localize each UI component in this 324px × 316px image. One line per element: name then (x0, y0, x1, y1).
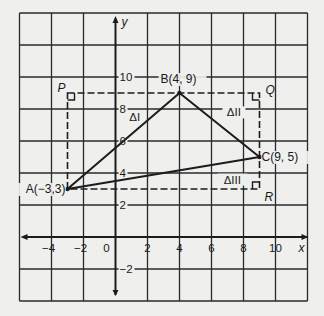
y-tick-label: 8 (120, 103, 126, 115)
coordinate-grid-plot: yx −4−20246810108642−2 PQRA(−3,3)B(4, 9)… (0, 0, 324, 316)
x-axis-left-arrow-icon (21, 234, 28, 240)
y-tick-label: 4 (120, 167, 127, 179)
x-tick-label: 8 (240, 242, 246, 254)
vertex-label-B: B(4, 9) (160, 72, 196, 86)
vertex-dot-A (65, 187, 69, 191)
y-axis-label: y (121, 15, 129, 29)
vertex-dot-B (177, 91, 181, 95)
y-axis-down-arrow-icon (113, 290, 119, 296)
y-axis-up-arrow-icon (113, 16, 119, 23)
x-axis-label: x (298, 241, 306, 255)
corner-label-R: R (265, 190, 274, 204)
region-label: ΔI (129, 111, 140, 123)
region-label: ΔII (227, 106, 241, 118)
region-labels: ΔIΔIIΔIII (127, 106, 248, 185)
coordinate-diagram: yx −4−20246810108642−2 PQRA(−3,3)B(4, 9)… (0, 0, 324, 316)
right-angle-mark-icon (68, 93, 75, 100)
x-tick-label: 4 (176, 242, 183, 254)
x-tick-label: −2 (74, 242, 87, 254)
y-tick-label: 10 (120, 71, 133, 83)
corner-label-Q: Q (266, 83, 275, 97)
right-angle-mark-icon (253, 93, 260, 100)
y-tick-label: 2 (120, 199, 126, 211)
x-tick-label: 2 (144, 242, 150, 254)
x-tick-label: −4 (42, 242, 56, 254)
right-angle-mark-icon (253, 182, 260, 189)
y-tick-label: −2 (120, 263, 133, 275)
x-tick-label: 0 (103, 242, 109, 254)
region-label: ΔIII (224, 174, 241, 186)
vertex-label-A: A(−3,3) (26, 182, 66, 196)
point-labels: PQRA(−3,3)B(4, 9)C(9, 5) (18, 72, 310, 204)
corner-label-P: P (58, 81, 66, 95)
x-tick-label: 10 (269, 242, 282, 254)
x-tick-label: 6 (208, 242, 214, 254)
vertex-label-C: C(9, 5) (262, 150, 299, 164)
